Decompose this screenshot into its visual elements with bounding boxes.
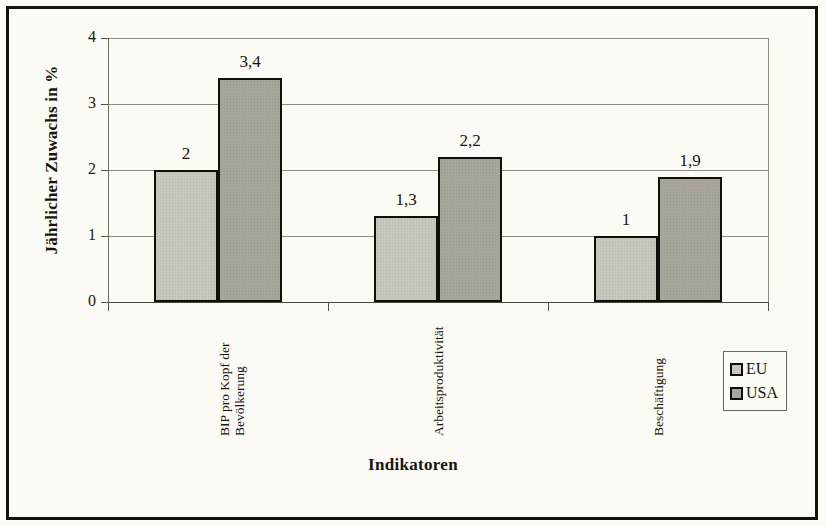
category-label-line: BIP pro Kopf der: [217, 342, 232, 436]
bar-eu-3: [594, 236, 658, 302]
category-label-1: BIP pro Kopf derBevölkerung: [217, 296, 247, 436]
y-tick-label: 1: [70, 226, 96, 244]
y-tick-label: 4: [70, 28, 96, 46]
legend-swatch-usa: [730, 387, 743, 400]
y-tick-mark: [101, 236, 108, 237]
value-label-eu-2: 1,3: [376, 190, 436, 210]
bar-fill-texture: [596, 238, 656, 300]
y-tick-label: 2: [70, 160, 96, 178]
value-label-usa-1: 3,4: [220, 52, 280, 72]
bar-fill-texture: [156, 172, 216, 300]
y-tick-mark: [101, 302, 108, 303]
bar-usa-1: [218, 78, 282, 302]
value-label-usa-3: 1,9: [660, 151, 720, 171]
y-tick-mark: [101, 104, 108, 105]
axis-edge-tick: [108, 302, 109, 311]
axis-edge-tick: [768, 302, 769, 311]
legend-label-eu: EU: [746, 360, 767, 378]
bar-usa-2: [438, 157, 502, 302]
gridline-0: [108, 302, 768, 303]
category-label-line: Bevölkerung: [232, 296, 247, 436]
category-label-2: Arbeitsproduktivität: [431, 327, 446, 436]
gridline-3: [108, 104, 768, 105]
legend-swatch-eu: [730, 363, 743, 376]
legend-label-usa: USA: [746, 384, 778, 402]
bar-usa-3: [658, 177, 722, 302]
x-axis-title: Indikatoren: [0, 455, 826, 475]
chart-legend: EUUSA: [723, 351, 787, 411]
bar-eu-1: [154, 170, 218, 302]
legend-item-usa: USA: [730, 381, 778, 405]
y-axis-title: Jährlicher Zuwachs in %: [42, 50, 62, 270]
category-label-line: Beschäftigung: [651, 358, 666, 436]
bar-fill-texture: [220, 80, 280, 300]
y-tick-mark: [101, 38, 108, 39]
gridline-4: [108, 38, 768, 39]
bar-chart: Jährlicher Zuwachs in % 01234 23,41,32,2…: [0, 0, 826, 526]
bar-eu-2: [374, 216, 438, 302]
value-label-eu-1: 2: [156, 144, 216, 164]
bar-fill-texture: [376, 218, 436, 300]
legend-item-eu: EU: [730, 357, 778, 381]
y-tick-label: 3: [70, 94, 96, 112]
y-tick-mark: [101, 170, 108, 171]
y-axis-line: [108, 38, 109, 302]
plot-right-edge: [768, 38, 769, 302]
value-label-eu-3: 1: [596, 210, 656, 230]
category-label-line: Arbeitsproduktivität: [431, 327, 446, 436]
value-label-usa-2: 2,2: [440, 131, 500, 151]
y-tick-label: 0: [70, 292, 96, 310]
bar-fill-texture: [440, 159, 500, 300]
category-separator-tick: [548, 302, 549, 311]
category-label-3: Beschäftigung: [651, 358, 666, 436]
bar-fill-texture: [660, 179, 720, 300]
category-separator-tick: [328, 302, 329, 311]
